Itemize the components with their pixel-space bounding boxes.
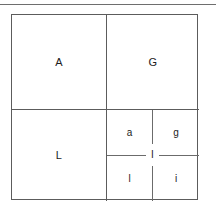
subcell-label-g: g — [173, 128, 179, 138]
outer-grid-box: A G L a g l i I — [11, 14, 198, 200]
cell-label-l: L — [56, 150, 62, 161]
top-horizontal-rule — [0, 4, 216, 5]
subcell-bottom-right: i — [153, 156, 199, 201]
nested-subgrid: a g l i I — [107, 110, 199, 201]
cell-label-a: A — [55, 57, 63, 68]
subcell-label-l: l — [128, 174, 130, 184]
cell-top-left: A — [12, 15, 106, 109]
diagram-canvas: A G L a g l i I — [0, 0, 216, 215]
subgrid-center-label: I — [146, 144, 159, 166]
cell-bottom-left: L — [12, 110, 106, 201]
subcell-label-i: i — [175, 174, 177, 184]
subcell-top-right: g — [153, 110, 199, 155]
cell-label-g: G — [149, 57, 158, 68]
cell-top-right: G — [107, 15, 199, 109]
subcell-label-a: a — [127, 128, 133, 138]
